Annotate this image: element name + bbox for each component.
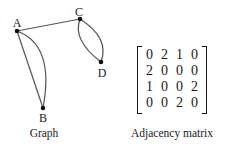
matrix-cell: 2 xyxy=(187,79,202,95)
matrix-cell: 0 xyxy=(187,47,202,63)
node-label-c: C xyxy=(75,6,83,18)
matrix-cell: 0 xyxy=(172,79,187,95)
edge-a-b-straight xyxy=(17,31,43,108)
matrix-row: 1 0 0 2 xyxy=(142,79,202,95)
edge-a-c xyxy=(17,19,80,31)
matrix-row: 0 2 1 0 xyxy=(142,47,202,63)
matrix-cell: 0 xyxy=(157,63,172,79)
graph-caption: Graph xyxy=(30,127,59,139)
adjacency-matrix: 0 2 1 0 2 0 0 0 1 0 0 2 0 0 2 0 xyxy=(137,46,207,114)
matrix-cell: 0 xyxy=(187,95,202,111)
matrix-cell: 2 xyxy=(157,47,172,63)
matrix-right-bracket xyxy=(202,46,207,114)
node-b xyxy=(41,106,46,111)
node-label-d: D xyxy=(98,67,107,79)
matrix-cell: 0 xyxy=(157,79,172,95)
matrix-cell: 1 xyxy=(142,79,157,95)
edge-c-d-right xyxy=(80,19,103,62)
matrix-cell: 1 xyxy=(172,47,187,63)
matrix-cell: 0 xyxy=(172,63,187,79)
matrix-cell: 0 xyxy=(142,95,157,111)
matrix-caption: Adjacency matrix xyxy=(131,127,213,139)
node-label-b: B xyxy=(39,112,47,124)
node-label-a: A xyxy=(13,17,22,29)
matrix-cell: 2 xyxy=(142,63,157,79)
matrix-row: 0 0 2 0 xyxy=(142,95,202,111)
matrix-cell: 2 xyxy=(172,95,187,111)
matrix-cell: 0 xyxy=(157,95,172,111)
matrix-row: 2 0 0 0 xyxy=(142,63,202,79)
matrix-cell: 0 xyxy=(142,47,157,63)
node-d xyxy=(99,60,104,65)
matrix-cell: 0 xyxy=(187,63,202,79)
